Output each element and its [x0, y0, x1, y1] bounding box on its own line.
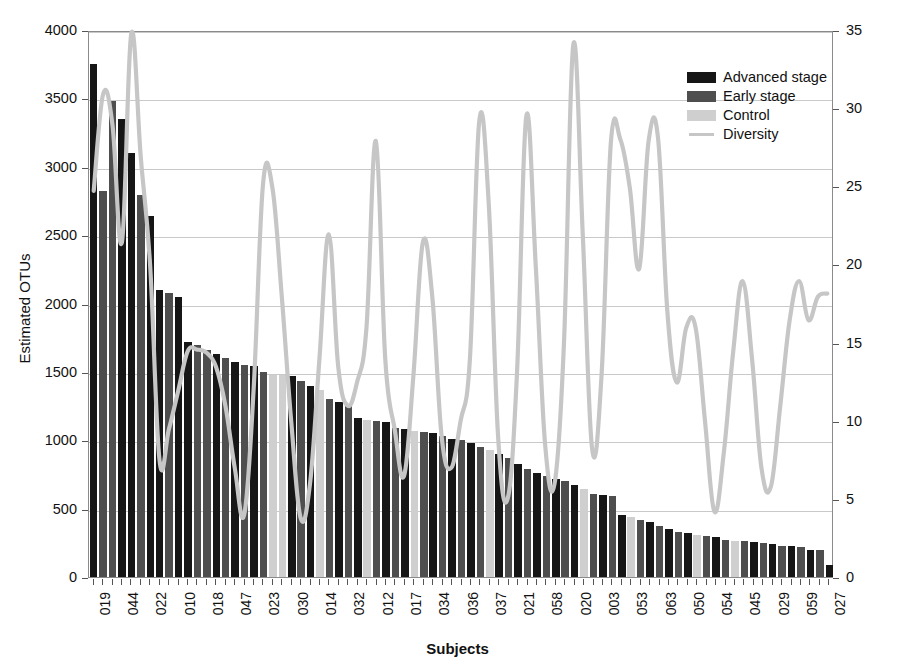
x-tick: [225, 579, 226, 585]
x-tick: [809, 579, 810, 585]
x-tick: [215, 579, 216, 585]
x-tick-label: 034: [437, 592, 451, 615]
x-tick: [102, 579, 103, 585]
x-tick: [706, 579, 707, 585]
x-tick: [536, 579, 537, 585]
x-tick: [112, 579, 113, 585]
y-tick-label-right: 15: [846, 336, 890, 351]
y-tick-label-right: 5: [846, 492, 890, 507]
x-tick: [394, 579, 395, 585]
x-tick: [498, 579, 499, 585]
x-tick: [121, 579, 122, 585]
x-tick-label: 063: [664, 592, 678, 615]
y-tick-right: [833, 31, 839, 32]
y-tick-left: [82, 578, 88, 579]
x-tick-label: 036: [466, 592, 480, 615]
legend-line-diversity-icon: [687, 129, 716, 140]
legend-label-control: Control: [723, 107, 770, 123]
x-tick: [649, 579, 650, 585]
legend-label-diversity: Diversity: [723, 126, 779, 142]
x-tick: [187, 579, 188, 585]
x-tick: [300, 579, 301, 585]
plot-area: Advanced stage Early stage Control Diver…: [88, 31, 833, 578]
x-tick: [310, 579, 311, 585]
x-tick-label: 022: [154, 592, 168, 615]
y-tick-label-left: 0: [17, 570, 77, 585]
x-tick: [828, 579, 829, 585]
x-tick: [338, 579, 339, 585]
legend: Advanced stage Early stage Control Diver…: [683, 66, 831, 147]
x-tick: [715, 579, 716, 585]
x-tick-label: 018: [211, 592, 225, 615]
x-tick-label: 059: [805, 592, 819, 615]
x-tick: [659, 579, 660, 585]
y-tick-label-right: 10: [846, 414, 890, 429]
x-axis-title: Subjects: [0, 640, 915, 657]
y-tick-right: [833, 422, 839, 423]
x-tick: [753, 579, 754, 585]
x-tick-label: 053: [635, 592, 649, 615]
x-tick: [687, 579, 688, 585]
x-tick: [819, 579, 820, 585]
y-tick-right: [833, 500, 839, 501]
x-tick: [602, 579, 603, 585]
y-tick-label-left: 1500: [17, 365, 77, 380]
x-tick: [734, 579, 735, 585]
x-tick: [130, 579, 131, 585]
x-tick: [366, 579, 367, 585]
x-tick-label: 029: [777, 592, 791, 615]
y-tick-label-left: 2500: [17, 228, 77, 243]
x-tick: [574, 579, 575, 585]
y-tick-label-right: 30: [846, 101, 890, 116]
x-tick: [357, 579, 358, 585]
x-tick: [564, 579, 565, 585]
x-tick: [470, 579, 471, 585]
x-tick: [347, 579, 348, 585]
y-tick-label-left: 4000: [17, 23, 77, 38]
x-tick-label: 037: [494, 592, 508, 615]
x-tick-label: 003: [607, 592, 621, 615]
x-tick: [696, 579, 697, 585]
x-tick-label: 032: [352, 592, 366, 615]
x-tick: [621, 579, 622, 585]
x-tick: [168, 579, 169, 585]
x-tick-label: 019: [98, 592, 112, 615]
x-tick: [781, 579, 782, 585]
y-tick-label-left: 1000: [17, 433, 77, 448]
x-tick: [772, 579, 773, 585]
x-tick: [762, 579, 763, 585]
y-tick-right: [833, 578, 839, 579]
x-tick: [461, 579, 462, 585]
x-tick: [178, 579, 179, 585]
legend-item-diversity: Diversity: [687, 125, 827, 144]
legend-item-control: Control: [687, 106, 827, 125]
x-tick: [385, 579, 386, 585]
x-tick: [593, 579, 594, 585]
x-tick: [159, 579, 160, 585]
x-tick: [743, 579, 744, 585]
x-tick: [508, 579, 509, 585]
x-tick: [791, 579, 792, 585]
y-tick-label-right: 35: [846, 23, 890, 38]
x-tick: [328, 579, 329, 585]
x-tick: [262, 579, 263, 585]
x-tick: [432, 579, 433, 585]
x-tick: [319, 579, 320, 585]
x-tick: [206, 579, 207, 585]
legend-item-early: Early stage: [687, 87, 827, 106]
x-tick-label: 014: [324, 592, 338, 615]
x-tick: [677, 579, 678, 585]
x-tick: [93, 579, 94, 585]
x-tick-label: 045: [748, 592, 762, 615]
x-tick: [583, 579, 584, 585]
x-tick: [527, 579, 528, 585]
legend-swatch-control-icon: [687, 110, 716, 121]
chart-figure: Estimated OTUs Inverse simpson diversity…: [0, 0, 915, 671]
y-tick-label-right: 25: [846, 179, 890, 194]
x-tick: [668, 579, 669, 585]
x-tick: [451, 579, 452, 585]
y-tick-label-left: 500: [17, 502, 77, 517]
x-tick: [630, 579, 631, 585]
legend-swatch-advanced-icon: [687, 72, 716, 83]
x-tick: [800, 579, 801, 585]
